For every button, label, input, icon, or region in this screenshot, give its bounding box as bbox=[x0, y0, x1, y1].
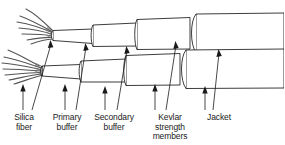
upper-silica-fiber-strands bbox=[17, 9, 53, 44]
lower-cable bbox=[2, 49, 284, 89]
label-jacket: Jacket bbox=[199, 113, 239, 123]
label-primary-buffer: Primary buffer bbox=[45, 113, 89, 132]
lower-kevlar-strength-members bbox=[124, 54, 180, 86]
lower-secondary-buffer bbox=[79, 59, 126, 82]
label-silica-fiber-line2: fiber bbox=[4, 123, 44, 133]
label-kevlar-line3: members bbox=[144, 132, 196, 142]
arrowhead-secondary-upper bbox=[124, 46, 129, 54]
lower-primary-buffer bbox=[41, 65, 82, 80]
upper-kevlar-strength-members bbox=[135, 18, 190, 50]
label-silica-fiber: Silica fiber bbox=[4, 113, 44, 132]
arrowhead-silica-upper bbox=[48, 40, 54, 48]
arrowhead-primary-lower bbox=[62, 84, 67, 92]
fiber-optic-cable-diagram: Silica fiber Primary buffer Secondary bu… bbox=[0, 0, 284, 145]
upper-jacket bbox=[192, 13, 285, 53]
upper-secondary-buffer bbox=[91, 23, 137, 47]
upper-cable bbox=[17, 9, 284, 53]
lower-silica-fiber-strands bbox=[2, 50, 41, 84]
label-jacket-line1: Jacket bbox=[199, 113, 239, 123]
arrowhead-secondary-lower bbox=[102, 86, 107, 94]
arrowhead-silica-lower bbox=[20, 84, 25, 92]
label-secondary-buffer-line2: buffer bbox=[86, 123, 142, 133]
lower-jacket bbox=[182, 49, 285, 89]
label-secondary-buffer: Secondary buffer bbox=[86, 113, 142, 132]
label-primary-buffer-line2: buffer bbox=[45, 123, 89, 133]
arrowhead-primary-upper bbox=[83, 43, 88, 51]
label-kevlar-strength-members: Kevlar strength members bbox=[144, 113, 196, 142]
upper-primary-buffer bbox=[52, 29, 94, 44]
